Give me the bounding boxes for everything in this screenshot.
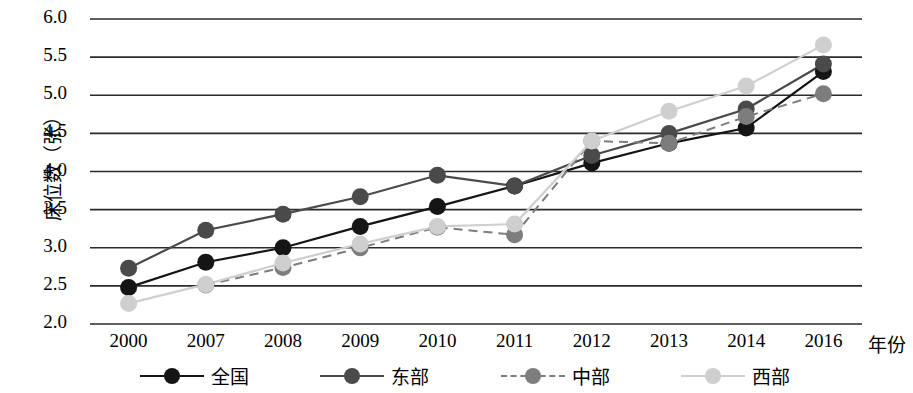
x-axis-tick-label: 2013 bbox=[629, 330, 709, 352]
legend-label: 中部 bbox=[572, 362, 610, 389]
legend-key-icon bbox=[320, 368, 384, 384]
data-point-marker bbox=[197, 254, 214, 271]
data-point-marker bbox=[352, 188, 369, 205]
data-point-marker bbox=[429, 198, 446, 215]
legend-marker-icon bbox=[705, 368, 721, 384]
legend-label: 东部 bbox=[391, 362, 429, 389]
legend-marker-icon bbox=[164, 368, 180, 384]
legend-item[interactable]: 中部 bbox=[501, 362, 610, 389]
data-point-marker bbox=[815, 85, 832, 102]
legend-key-icon bbox=[681, 368, 745, 384]
x-axis-tick-label: 2009 bbox=[320, 330, 400, 352]
data-point-marker bbox=[661, 135, 678, 152]
chart-figure: 床位数（张） 年份 2.02.53.03.54.04.55.05.56.0 20… bbox=[0, 0, 913, 393]
data-point-marker bbox=[197, 276, 214, 293]
x-axis-tick-label: 2008 bbox=[243, 330, 323, 352]
data-point-marker bbox=[120, 295, 137, 312]
y-axis-tick-label: 3.0 bbox=[30, 235, 80, 257]
data-point-marker bbox=[583, 133, 600, 150]
legend-marker-icon bbox=[525, 368, 541, 384]
legend-item[interactable]: 西部 bbox=[681, 362, 790, 389]
y-axis-tick-label: 5.5 bbox=[30, 44, 80, 66]
x-axis-tick-label: 2010 bbox=[397, 330, 477, 352]
y-axis-tick-label: 2.5 bbox=[30, 273, 80, 295]
data-point-marker bbox=[661, 103, 678, 120]
x-axis-tick-label: 2007 bbox=[166, 330, 246, 352]
x-axis-tick-label: 2011 bbox=[475, 330, 555, 352]
legend-label: 全国 bbox=[211, 362, 249, 389]
data-point-marker bbox=[275, 239, 292, 256]
data-point-marker bbox=[275, 206, 292, 223]
y-axis-tick-label: 2.0 bbox=[30, 311, 80, 333]
series-line-group bbox=[129, 45, 824, 304]
y-axis-tick-label: 4.5 bbox=[30, 120, 80, 142]
x-axis-tick-label: 2000 bbox=[89, 330, 169, 352]
data-point-marker bbox=[275, 255, 292, 272]
data-point-marker bbox=[815, 36, 832, 53]
data-point-marker bbox=[583, 147, 600, 164]
data-point-marker bbox=[815, 56, 832, 73]
x-axis-tick-label: 2016 bbox=[783, 330, 863, 352]
data-point-marker bbox=[506, 178, 523, 195]
legend-key-icon bbox=[501, 368, 565, 384]
legend-item[interactable]: 全国 bbox=[140, 362, 249, 389]
data-point-marker bbox=[352, 218, 369, 235]
x-axis-tick-label: 2012 bbox=[552, 330, 632, 352]
data-point-marker bbox=[120, 279, 137, 296]
legend-item[interactable]: 东部 bbox=[320, 362, 429, 389]
data-point-marker bbox=[429, 167, 446, 184]
data-point-marker bbox=[352, 235, 369, 252]
series-line bbox=[129, 45, 824, 304]
x-axis-tick-label: 2014 bbox=[706, 330, 786, 352]
data-point-marker bbox=[120, 260, 137, 277]
series-line bbox=[129, 72, 824, 288]
series-marker-group bbox=[120, 36, 832, 312]
x-axis-title: 年份 bbox=[868, 330, 906, 357]
data-point-marker bbox=[738, 108, 755, 125]
legend-key-icon bbox=[140, 368, 204, 384]
data-point-marker bbox=[429, 218, 446, 235]
legend-marker-icon bbox=[344, 368, 360, 384]
y-axis-tick-label: 5.0 bbox=[30, 82, 80, 104]
y-axis-tick-label: 4.0 bbox=[30, 159, 80, 181]
legend-label: 西部 bbox=[752, 362, 790, 389]
y-axis-tick-label: 3.5 bbox=[30, 197, 80, 219]
y-axis-tick-label: 6.0 bbox=[30, 6, 80, 28]
chart-legend: 全国东部中部西部 bbox=[140, 362, 790, 389]
data-point-marker bbox=[197, 222, 214, 239]
data-point-marker bbox=[506, 216, 523, 233]
data-point-marker bbox=[738, 78, 755, 95]
